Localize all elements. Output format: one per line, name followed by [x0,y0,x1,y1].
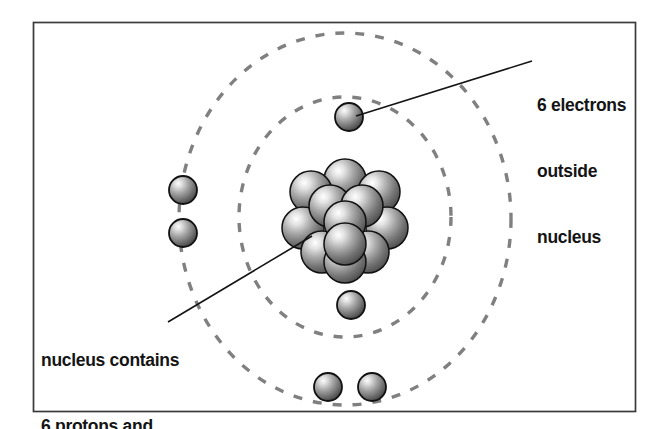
electrons-annotation-line-1: 6 electrons [537,94,626,116]
nucleus-cluster [282,159,408,283]
electrons-annotation-line-3: nucleus [537,226,626,248]
nucleus-annotation: nucleus contains 6 protons and 6 neutron… [41,305,179,429]
nucleon-12 [324,223,366,265]
electron-outer-left-lower [169,219,197,247]
electron-inner-top [335,103,363,131]
electron-inner-bottom [337,291,365,319]
nucleus-annotation-line-1: nucleus contains [41,349,179,371]
electrons-annotation: 6 electrons outside nucleus [537,50,626,292]
electron-outer-bottom-right [358,373,386,401]
atom-diagram-figure: 6 electrons outside nucleus nucleus cont… [0,0,660,429]
nucleus-annotation-line-2: 6 protons and [41,415,179,429]
electrons-leader-line [356,61,532,116]
electron-outer-bottom-left [314,373,342,401]
electron-outer-left-upper [169,176,197,204]
electrons-annotation-line-2: outside [537,160,626,182]
nucleus-leader-line [168,236,312,322]
